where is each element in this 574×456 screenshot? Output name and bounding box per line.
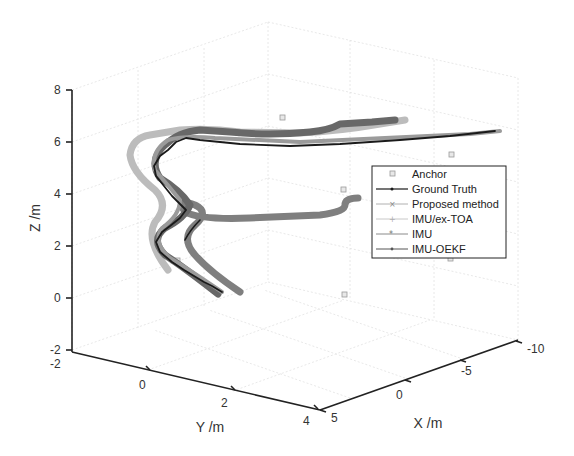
legend-label-imu-ex-toa: IMU/ex-TOA xyxy=(412,213,474,225)
svg-text:-5: -5 xyxy=(461,364,472,378)
legend-label-ground-truth: Ground Truth xyxy=(412,183,477,195)
trajectory-3d-chart: 8 6 4 2 0 -2 -2 0 2 4 5 0 -5 -10 Z /m Y … xyxy=(0,0,574,456)
svg-text:5: 5 xyxy=(331,411,338,425)
svg-text:0: 0 xyxy=(139,378,146,392)
svg-text:6: 6 xyxy=(54,135,61,149)
legend-anchor-icon xyxy=(390,171,395,176)
y-tick-labels: -2 0 2 4 xyxy=(50,357,310,428)
svg-text:-10: -10 xyxy=(527,342,545,356)
svg-text:×: × xyxy=(389,200,396,209)
legend-label-imu-oekf: IMU-OEKF xyxy=(412,243,466,255)
series-imu xyxy=(182,198,358,292)
legend: Anchor Ground Truth × Proposed method + … xyxy=(372,166,506,258)
legend-label-imu: IMU xyxy=(412,228,432,240)
x-axis xyxy=(320,340,518,410)
z-axis-label: Z /m xyxy=(27,204,43,232)
legend-label-anchor: Anchor xyxy=(412,168,447,180)
svg-text:8: 8 xyxy=(54,83,61,97)
legend-label-proposed: Proposed method xyxy=(412,198,499,210)
svg-text:*: * xyxy=(389,230,393,239)
y-axis xyxy=(72,352,320,410)
svg-text:2: 2 xyxy=(221,396,228,410)
svg-text:+: + xyxy=(389,215,396,224)
svg-text:-2: -2 xyxy=(50,343,61,357)
y-axis-label: Y /m xyxy=(196,419,225,435)
svg-text:-2: -2 xyxy=(50,357,61,371)
svg-text:4: 4 xyxy=(54,187,61,201)
z-tick-labels: 8 6 4 2 0 -2 xyxy=(50,83,61,357)
svg-text:0: 0 xyxy=(396,388,403,402)
x-axis-label: X /m xyxy=(414,415,443,431)
svg-text:2: 2 xyxy=(54,239,61,253)
svg-text:4: 4 xyxy=(303,414,310,428)
svg-text:0: 0 xyxy=(54,291,61,305)
x-tick-labels: 5 0 -5 -10 xyxy=(331,342,545,425)
